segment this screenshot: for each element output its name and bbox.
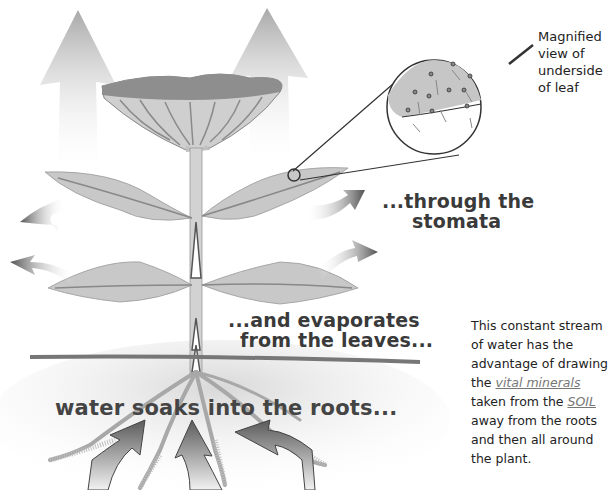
magnifier-callout: [288, 60, 481, 181]
label-evaporates: ...and evaporates from the leaves...: [228, 310, 433, 350]
term-vital-minerals: vital minerals: [496, 375, 581, 390]
para-text-2: taken from the: [471, 394, 568, 409]
label-evaporates-line1: ...and evaporates: [228, 310, 433, 330]
label-roots: water soaks into the roots...: [55, 398, 397, 418]
label-evaporates-line2: from the leaves...: [228, 330, 433, 350]
vapor-arrow-upper-right: [305, 190, 365, 220]
explanation-paragraph: This constant stream of water has the ad…: [471, 316, 611, 468]
term-soil: SOIL: [568, 394, 596, 409]
label-stomata-line2: stomata: [382, 211, 534, 231]
label-magnified-line2: view of: [538, 45, 603, 62]
leaf-upper-left: [45, 172, 192, 220]
label-magnified-line3: underside: [538, 62, 603, 79]
label-stomata-line1: ...through the: [382, 191, 534, 211]
vapor-arrow-lower-right: [318, 240, 378, 280]
label-stomata: ...through the stomata: [382, 191, 534, 231]
para-text-3: away from the roots and then all around …: [471, 413, 597, 466]
magnified-pointer-line: [509, 45, 533, 64]
leaf-lower-right: [202, 262, 358, 304]
label-magnified-view: Magnified view of underside of leaf: [538, 28, 603, 96]
label-magnified-line4: of leaf: [538, 79, 603, 96]
vapor-arrow-upper-left: [20, 198, 65, 232]
label-magnified-line1: Magnified: [538, 28, 603, 45]
